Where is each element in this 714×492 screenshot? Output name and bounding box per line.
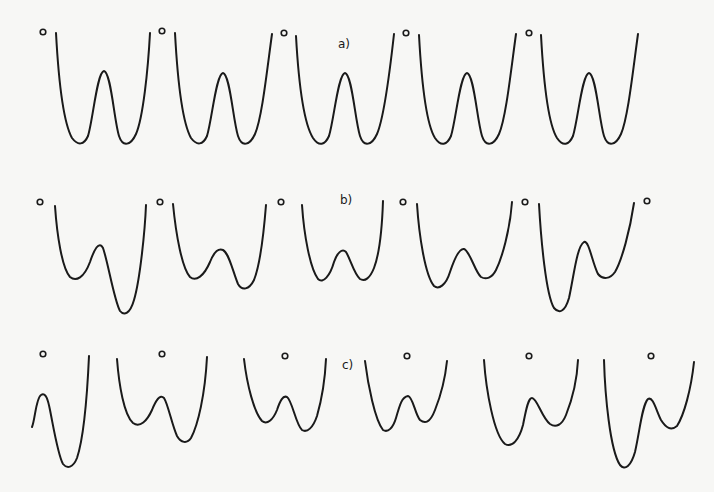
marker-circle-icon — [403, 30, 409, 36]
row-a-curve-4 — [403, 30, 516, 144]
panel-label-a: a) — [338, 37, 350, 51]
row-b-curve-4 — [400, 199, 512, 287]
row-b-curve-5 — [522, 198, 650, 311]
row-c-curve-5 — [484, 353, 578, 445]
panel-label-c: c) — [342, 358, 353, 372]
marker-circle-icon — [40, 351, 46, 357]
marker-circle-icon — [157, 199, 163, 205]
row-c-curve-2 — [117, 351, 207, 442]
row-c-curve-3 — [244, 353, 326, 431]
marker-circle-icon — [40, 29, 46, 35]
marker-circle-icon — [404, 353, 410, 359]
row-c-curve-1 — [32, 351, 89, 467]
marker-circle-icon — [278, 199, 284, 205]
marker-circle-icon — [526, 353, 532, 359]
marker-circle-icon — [159, 28, 165, 34]
marker-circle-icon — [400, 199, 406, 205]
row-b-curve-2 — [157, 199, 266, 288]
marker-circle-icon — [648, 353, 654, 359]
panel-c: c) — [32, 351, 694, 467]
row-b-curve-3 — [278, 199, 383, 280]
potential-curves-figure: a) b) — [0, 0, 714, 492]
marker-circle-icon — [644, 198, 650, 204]
row-a-curve-1 — [40, 29, 150, 144]
marker-circle-icon — [282, 353, 288, 359]
row-c-curve-4 — [365, 353, 447, 431]
marker-circle-icon — [526, 30, 532, 36]
marker-circle-icon — [522, 199, 528, 205]
panel-label-b: b) — [340, 193, 352, 207]
row-b-curve-1 — [37, 199, 146, 313]
figure-canvas: a) b) — [0, 0, 714, 492]
panel-b: b) — [37, 193, 650, 313]
marker-circle-icon — [37, 199, 43, 205]
panel-a: a) — [40, 28, 638, 144]
row-a-curve-5 — [526, 30, 638, 144]
marker-circle-icon — [281, 30, 287, 36]
marker-circle-icon — [159, 351, 165, 357]
row-a-curve-2 — [159, 28, 272, 144]
row-c-curve-6 — [604, 353, 694, 467]
